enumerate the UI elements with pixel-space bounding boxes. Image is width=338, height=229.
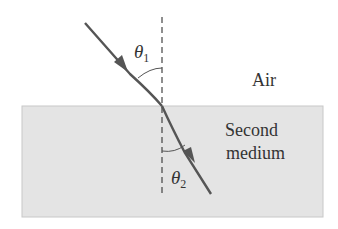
second-medium-label-line1: Second	[225, 120, 278, 140]
refraction-diagram: θ1 θ2 Air Second medium	[0, 0, 338, 229]
air-label: Air	[252, 70, 276, 90]
incident-angle-arc	[138, 68, 162, 78]
incident-angle-label: θ1	[134, 41, 149, 65]
second-medium-label-line2: medium	[226, 143, 285, 163]
